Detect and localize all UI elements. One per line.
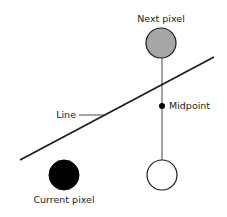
current-pixel-label: Current pixel	[33, 194, 94, 205]
current-pixel-circle	[49, 160, 79, 190]
next-pixel-circle	[146, 28, 176, 58]
next-pixel-label: Next pixel	[137, 13, 185, 24]
line-label: Line	[56, 109, 76, 120]
midpoint-label: Midpoint	[169, 100, 210, 111]
midpoint-diagram: Next pixel Midpoint Line Current pixel	[0, 0, 227, 217]
midpoint-dot	[159, 103, 165, 109]
candidate-pixel-circle	[147, 160, 177, 190]
